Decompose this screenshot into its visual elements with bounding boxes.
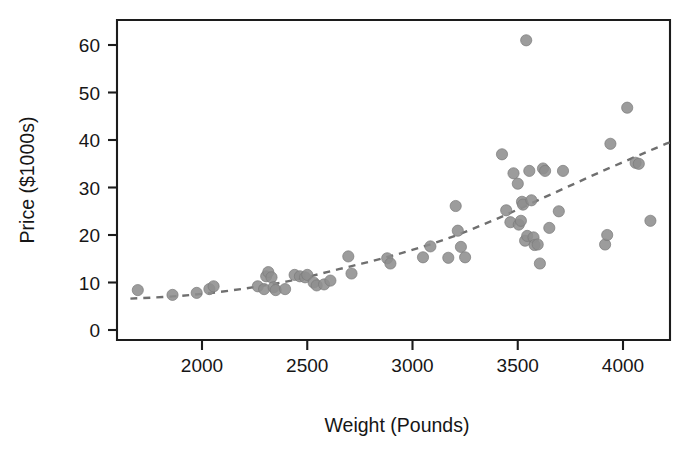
plot-canvas: 0102030405060 20002500300035004000 Weigh…	[0, 0, 699, 461]
data-point	[602, 229, 613, 240]
data-point	[132, 285, 143, 296]
data-point	[191, 287, 202, 298]
data-point	[534, 258, 545, 269]
data-point	[343, 251, 354, 262]
x-tick-label: 3000	[391, 355, 433, 376]
data-point	[450, 200, 461, 211]
data-point	[540, 165, 551, 176]
data-point	[460, 252, 471, 263]
x-tick-label: 3500	[497, 355, 539, 376]
y-axis-ticks	[108, 45, 117, 330]
scatter-plot-figure: 0102030405060 20002500300035004000 Weigh…	[0, 0, 699, 461]
data-point	[544, 222, 555, 233]
data-point	[532, 239, 543, 250]
x-tick-label: 4000	[602, 355, 644, 376]
data-point	[633, 158, 644, 169]
y-tick-label: 10	[79, 273, 100, 294]
data-point	[557, 165, 568, 176]
y-tick-label: 50	[79, 83, 100, 104]
data-point	[645, 215, 656, 226]
data-point	[524, 165, 535, 176]
data-point	[167, 289, 178, 300]
data-point	[417, 252, 428, 263]
data-point	[425, 241, 436, 252]
x-axis-ticks	[202, 340, 623, 350]
data-point	[512, 178, 523, 189]
data-point	[496, 149, 507, 160]
data-point-markers	[132, 35, 656, 301]
data-point	[501, 205, 512, 216]
data-point	[385, 258, 396, 269]
y-tick-label: 0	[89, 320, 100, 341]
y-axis-title: Price ($1000s)	[16, 117, 38, 244]
data-point	[443, 252, 454, 263]
data-point	[521, 35, 532, 46]
data-point	[280, 284, 291, 295]
data-point	[266, 272, 277, 283]
y-axis-tick-labels: 0102030405060	[79, 35, 100, 341]
y-tick-label: 30	[79, 178, 100, 199]
data-point	[605, 138, 616, 149]
trend-line	[130, 142, 671, 299]
data-point	[455, 241, 466, 252]
x-axis-tick-labels: 20002500300035004000	[181, 355, 644, 376]
y-tick-label: 60	[79, 35, 100, 56]
data-point	[515, 215, 526, 226]
data-point	[346, 268, 357, 279]
data-point	[553, 206, 564, 217]
x-axis-title: Weight (Pounds)	[325, 414, 470, 436]
y-tick-label: 20	[79, 225, 100, 246]
data-point	[452, 225, 463, 236]
x-tick-label: 2500	[286, 355, 328, 376]
data-point	[325, 275, 336, 286]
data-point	[622, 102, 633, 113]
data-point	[526, 195, 537, 206]
data-point	[208, 281, 219, 292]
y-tick-label: 40	[79, 130, 100, 151]
data-point	[508, 168, 519, 179]
x-tick-label: 2000	[181, 355, 223, 376]
